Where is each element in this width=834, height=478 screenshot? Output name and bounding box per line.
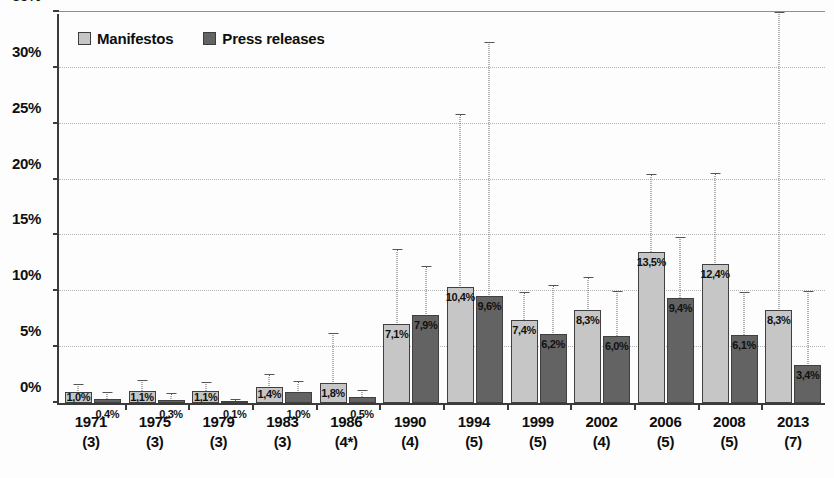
value-label-2006-manifestos: 13,5% [637,256,666,268]
x-axis-count-1994: (5) [442,432,506,452]
bar-wrapper-1994-manifestos: 10,4% [447,14,474,403]
bar-group-2006: 13,5%9,4% [634,14,698,403]
value-label-2013-press-releases: 3,4% [796,369,819,381]
y-axis-tick-label-10: 10% [0,266,41,283]
bar-wrapper-1983-press-releases: 1,0% [285,14,312,403]
bar-wrapper-1990-press-releases: 7,9% [412,14,439,403]
value-label-2013-manifestos: 8,3% [767,314,790,326]
x-axis-tick-2002: 2002(4) [570,412,634,453]
value-label-1994-manifestos: 10,4% [446,291,475,303]
bar-wrapper-1975-manifestos: 1,1% [129,14,156,403]
legend-swatch-press-releases-icon [203,32,216,45]
bar-1994-press-releases[interactable] [476,296,503,403]
x-axis-count-1986: (4*) [314,432,378,452]
x-axis-count-1971: (3) [59,432,123,452]
bar-group-1990: 7,1%7,9% [379,14,443,403]
bar-group-1979: 1,1%0,1% [188,14,252,403]
bar-2006-manifestos[interactable] [638,252,665,403]
gridline-35 [59,11,825,12]
bar-1986-press-releases[interactable] [349,397,376,403]
bar-group-1999: 7,4%6,2% [507,14,571,403]
bar-1971-press-releases[interactable] [94,399,121,403]
y-axis-tick-label-30: 30% [0,42,41,59]
bar-wrapper-1971-press-releases: 0,4% [94,14,121,403]
bar-wrapper-1986-press-releases: 0,5% [349,14,376,403]
value-label-1983-manifestos: 1,4% [258,388,281,400]
value-label-1986-manifestos: 1,8% [321,387,344,399]
bar-wrapper-2002-press-releases: 6,0% [603,14,630,403]
y-axis-tick-mark-0 [53,401,59,403]
x-axis-count-2006: (5) [633,432,697,452]
x-axis-year-2013: 2013 [761,412,825,432]
value-label-2002-press-releases: 6,0% [605,340,628,352]
y-axis-tick-mark-10 [53,289,59,291]
bar-wrapper-2013-press-releases: 3,4% [794,14,821,403]
bar-wrapper-2006-manifestos: 13,5% [638,14,665,403]
bar-group-2013: 8,3%3,4% [761,14,825,403]
bar-wrapper-2008-press-releases: 6,1% [731,14,758,403]
bar-1979-press-releases[interactable] [221,401,248,403]
x-axis-tick-1994: 1994(5) [442,412,506,453]
x-axis-year-2008: 2008 [697,412,761,432]
bar-wrapper-2006-press-releases: 9,4% [667,14,694,403]
bar-1994-manifestos[interactable] [447,287,474,403]
y-axis-tick-mark-5 [53,345,59,347]
x-axis-year-1990: 1990 [378,412,442,432]
x-axis-year-2006: 2006 [633,412,697,432]
bar-wrapper-1979-press-releases: 0,1% [221,14,248,403]
x-axis-count-2008: (5) [697,432,761,452]
bar-group-2002: 8,3%6,0% [570,14,634,403]
x-axis-count-1979: (3) [187,432,251,452]
x-axis-year-1994: 1994 [442,412,506,432]
x-axis-count-1990: (4) [378,432,442,452]
bar-wrapper-2002-manifestos: 8,3% [574,14,601,403]
y-axis-tick-mark-30 [53,66,59,68]
value-label-1983-press-releases: 1,0% [287,408,310,420]
value-label-1975-manifestos: 1,1% [130,391,153,403]
bar-groups: 1,0%0,4%1,1%0,3%1,1%0,1%1,4%1,0%1,8%0,5%… [61,14,825,403]
legend-entry-press-releases: Press releases [203,30,324,47]
bar-wrapper-1971-manifestos: 1,0% [65,14,92,403]
bar-wrapper-1999-press-releases: 6,2% [540,14,567,403]
x-axis-year-1999: 1999 [506,412,570,432]
bar-1983-press-releases[interactable] [285,392,312,403]
x-axis-tick-2013: 2013(7) [761,412,825,453]
bar-chart: 0%5%10%15%20%25%30%35% 1,0%0,4%1,1%0,3%1… [0,0,834,478]
bar-wrapper-1986-manifestos: 1,8% [320,14,347,403]
value-label-1999-manifestos: 7,4% [512,324,535,336]
x-axis-tick-1990: 1990(4) [378,412,442,453]
bar-group-1983: 1,4%1,0% [252,14,316,403]
value-label-2008-manifestos: 12,4% [700,268,729,280]
bar-wrapper-1999-manifestos: 7,4% [511,14,538,403]
value-label-1990-manifestos: 7,1% [385,328,408,340]
value-label-1975-press-releases: 0,3% [159,408,182,420]
bar-group-1994: 10,4%9,6% [443,14,507,403]
legend-swatch-manifestos-icon [78,32,91,45]
bar-group-1975: 1,1%0,3% [125,14,189,403]
value-label-1994-press-releases: 9,6% [478,300,501,312]
x-axis-year-2002: 2002 [570,412,634,432]
value-label-2006-press-releases: 9,4% [669,302,692,314]
x-axis-tick-1999: 1999(5) [506,412,570,453]
bar-1975-press-releases[interactable] [158,400,185,403]
y-axis-tick-mark-25 [53,122,59,124]
x-axis-count-2013: (7) [761,432,825,452]
value-label-2008-press-releases: 6,1% [732,339,755,351]
bar-wrapper-1994-press-releases: 9,6% [476,14,503,403]
y-axis-tick-label-25: 25% [0,98,41,115]
value-label-1979-press-releases: 0,1% [223,408,246,420]
y-axis-tick-mark-20 [53,178,59,180]
bar-wrapper-1979-manifestos: 1,1% [192,14,219,403]
value-label-1979-manifestos: 1,1% [194,391,217,403]
x-axis-count-1999: (5) [506,432,570,452]
y-axis-tick-mark-15 [53,233,59,235]
legend-label-press-releases: Press releases [222,30,324,47]
value-label-2002-manifestos: 8,3% [576,314,599,326]
value-label-1986-press-releases: 0,5% [350,408,373,420]
value-label-1971-press-releases: 0,4% [96,408,119,420]
bar-wrapper-1983-manifestos: 1,4% [256,14,283,403]
bar-wrapper-1990-manifestos: 7,1% [383,14,410,403]
y-axis-tick-label-20: 20% [0,154,41,171]
bar-2008-manifestos[interactable] [702,264,729,403]
x-axis-tick-2006: 2006(5) [633,412,697,453]
